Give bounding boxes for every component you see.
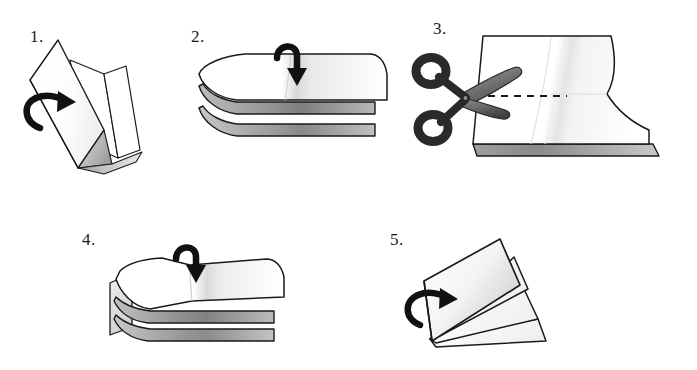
opened-cut-stack-icon bbox=[70, 235, 295, 365]
instruction-diagram-page: 1. bbox=[0, 0, 697, 370]
step-5-figure bbox=[396, 227, 581, 367]
open-paper-sheet-icon bbox=[435, 18, 697, 183]
step-2-panel: 2. bbox=[175, 0, 405, 200]
step-5-panel: 5. bbox=[380, 205, 580, 370]
open-sheet-face bbox=[473, 36, 649, 144]
step-3-figure bbox=[435, 18, 697, 183]
folded-paper-upright-icon bbox=[8, 18, 178, 193]
finished-booklet-icon bbox=[396, 227, 581, 367]
step-1-figure bbox=[8, 18, 178, 193]
step-2-figure bbox=[179, 30, 404, 170]
step-4-panel: 4. bbox=[70, 205, 300, 370]
step-4-figure bbox=[70, 235, 295, 365]
step-1-panel: 1. bbox=[0, 0, 185, 200]
folded-paper-stack-flat-icon bbox=[179, 30, 404, 170]
sheet-bottom-edge bbox=[473, 144, 659, 156]
step-3-panel: 3. bbox=[415, 0, 697, 200]
